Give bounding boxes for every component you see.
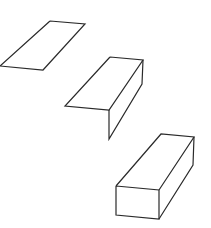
rectangular-prism-shape xyxy=(116,134,194,219)
folded-strip-edge xyxy=(109,60,143,139)
rectangular-prism-edge xyxy=(159,137,194,219)
diagram-canvas xyxy=(0,0,211,228)
flat-strip-shape xyxy=(0,21,85,70)
folding-diagram xyxy=(0,0,211,228)
folded-strip-shape xyxy=(65,57,143,139)
flat-strip-edge xyxy=(0,21,85,70)
rectangular-prism-edge xyxy=(116,186,159,219)
